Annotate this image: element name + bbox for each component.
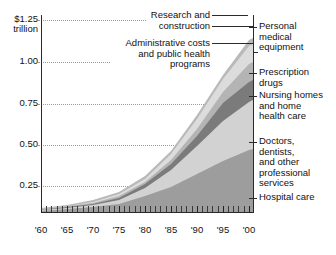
leader-administrative-public-health	[212, 43, 254, 44]
x-tick-1964	[62, 206, 63, 212]
x-tick-1992	[207, 206, 208, 212]
x-tick-1994	[218, 206, 219, 212]
callout-hospital-care: Hospital care	[259, 192, 335, 203]
x-tick-1975	[119, 206, 120, 213]
x-tick-1979	[140, 206, 141, 212]
x-tick-1989	[192, 206, 193, 212]
x-axis-label-1985: '85	[165, 224, 177, 235]
x-tick-1978	[135, 206, 136, 212]
x-tick-1970	[93, 206, 94, 213]
callout-nursing-home-health: Nursing homes and home health care	[259, 90, 336, 122]
leader-doctors-dentists	[249, 142, 257, 143]
callout-personal-medical-equipment: Personal medical equipment	[259, 21, 333, 53]
x-tick-1968	[83, 206, 84, 212]
x-tick-1965	[67, 206, 68, 213]
x-tick-1990	[197, 206, 198, 213]
x-tick-1983	[160, 206, 161, 212]
x-tick-1960	[41, 206, 42, 213]
x-tick-1982	[155, 206, 156, 212]
y-axis-label-075: 0.75	[20, 98, 39, 108]
y-axis-label-050: 0.50	[20, 139, 39, 149]
x-axis-label-1990: '90	[191, 224, 203, 235]
x-tick-1981	[150, 206, 151, 212]
x-tick-1972	[103, 206, 104, 212]
x-tick-1988	[186, 206, 187, 212]
right-axis-line	[253, 15, 254, 213]
x-tick-1977	[129, 206, 130, 212]
x-tick-1999	[244, 206, 245, 212]
callout-doctors-dentists: Doctors, dentists, and other professiona…	[259, 136, 331, 189]
x-tick-1991	[202, 206, 203, 212]
leader-bracket-pme	[253, 52, 254, 62]
x-tick-1987	[181, 206, 182, 212]
x-tick-1962	[51, 206, 52, 212]
leader-nursing-home-health	[249, 96, 257, 97]
x-tick-1969	[88, 206, 89, 212]
leader-hospital-care	[249, 198, 257, 199]
x-tick-1993	[212, 206, 213, 212]
x-tick-1966	[72, 206, 73, 212]
leader-research-construction	[212, 15, 248, 16]
x-tick-1997	[233, 206, 234, 212]
leader-personal-medical-equipment	[249, 27, 257, 28]
x-tick-1976	[124, 206, 125, 212]
callout-prescription-drugs: Prescription drugs	[259, 67, 333, 88]
x-axis-label-1995: '95	[217, 224, 229, 235]
x-axis-label-1965: '65	[61, 224, 73, 235]
x-axis-labels: '60 '65 '70 '75 '80 '85 '90 '95 '00	[0, 224, 336, 238]
x-axis-label-2000: '00	[243, 224, 255, 235]
x-tick-1961	[46, 206, 47, 212]
y-axis-label-025: 0.25	[20, 180, 39, 190]
callout-research-construction: Research and construction	[100, 10, 210, 31]
x-tick-1998	[238, 206, 239, 212]
callout-administrative-public-health: Administrative costs and public health p…	[88, 38, 210, 70]
x-axis-label-1960: '60	[35, 224, 47, 235]
x-tick-1985	[171, 206, 172, 213]
x-axis-label-1970: '70	[87, 224, 99, 235]
y-axis-line	[41, 15, 42, 213]
y-axis-label-100: 1.00	[20, 56, 39, 66]
leader-bracket-pme-top	[253, 52, 258, 53]
x-axis-label-1975: '75	[113, 224, 125, 235]
x-tick-2000	[249, 206, 250, 213]
y-axis-unit: trillion	[13, 24, 38, 34]
x-axis-ticks	[41, 206, 254, 213]
x-tick-1995	[223, 206, 224, 213]
y-axis-label-125: $1.25 trillion	[13, 14, 38, 34]
x-tick-1967	[77, 206, 78, 212]
x-tick-1996	[228, 206, 229, 212]
x-tick-1984	[166, 206, 167, 212]
x-tick-1963	[57, 206, 58, 212]
x-axis-label-1980: '80	[139, 224, 151, 235]
x-tick-1973	[109, 206, 110, 212]
leader-prescription-drugs	[249, 73, 257, 74]
leader-research-construction-2	[212, 26, 254, 27]
x-tick-1971	[98, 206, 99, 212]
x-tick-1986	[176, 206, 177, 212]
x-tick-1980	[145, 206, 146, 213]
x-tick-1974	[114, 206, 115, 212]
stacked-area-chart: $1.25 trillion 1.00 0.75 0.50 0.25	[0, 0, 336, 255]
